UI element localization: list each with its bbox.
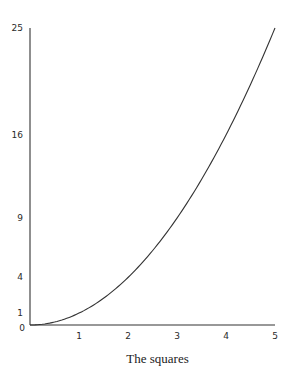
x-tick-label: 4 <box>223 331 229 341</box>
squares-chart: 0123451491625 <box>0 0 295 380</box>
x-tick-label: 2 <box>125 331 131 341</box>
y-tick-label: 4 <box>17 272 23 282</box>
axes <box>30 28 275 325</box>
x-tick-label: 0 <box>19 323 25 333</box>
tick-labels: 0123451491625 <box>12 23 278 341</box>
y-tick-label: 25 <box>12 23 23 33</box>
data-curve <box>30 28 275 325</box>
chart-caption: The squares <box>0 351 295 367</box>
y-tick-label: 9 <box>17 213 23 223</box>
x-tick-label: 1 <box>76 331 82 341</box>
y-tick-label: 16 <box>12 130 24 140</box>
x-tick-label: 5 <box>272 331 278 341</box>
x-tick-label: 3 <box>174 331 180 341</box>
y-tick-label: 1 <box>17 308 23 318</box>
